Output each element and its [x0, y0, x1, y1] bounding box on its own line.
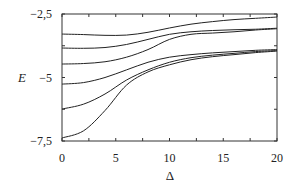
y-axis-label: E — [17, 70, 26, 85]
energy-curve-6 — [62, 51, 277, 138]
x-tick-label: 0 — [59, 151, 65, 165]
x-tick-label: 15 — [217, 151, 229, 165]
energy-curve-4 — [62, 50, 277, 85]
x-tick-label: 5 — [113, 151, 119, 165]
x-axis-label: Δ — [166, 168, 174, 183]
y-tick-label: −5 — [39, 71, 52, 85]
y-tick-label: −2,5 — [30, 7, 52, 21]
energy-curve-1 — [62, 17, 277, 35]
curves-group — [62, 17, 277, 138]
x-tick-label: 20 — [271, 151, 283, 165]
x-tick-label: 10 — [164, 151, 176, 165]
y-tick-label: −7,5 — [30, 134, 52, 148]
energy-levels-chart: 05101520−2,5−5−7,5 E Δ — [0, 0, 287, 184]
energy-curve-5 — [62, 51, 277, 109]
